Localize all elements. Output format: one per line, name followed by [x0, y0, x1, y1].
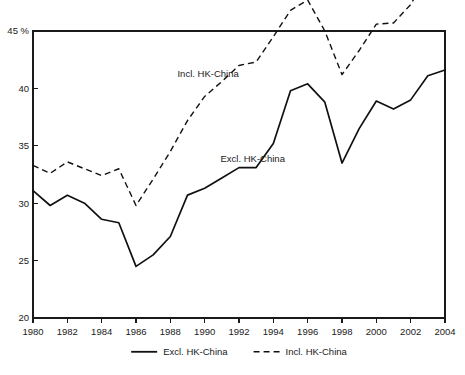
- x-tick-label: 1982: [57, 326, 78, 337]
- x-tick-label: 1990: [194, 326, 215, 337]
- x-tick-label: 1998: [331, 326, 352, 337]
- x-tick-label: 1992: [228, 326, 249, 337]
- y-tick-label: 30: [18, 198, 29, 209]
- x-tick-label: 1988: [160, 326, 181, 337]
- y-tick-label: 25: [18, 255, 29, 266]
- chart-figure: 202530354045 % 1980198219841986198819901…: [0, 0, 465, 375]
- x-tick-label: 1980: [22, 326, 43, 337]
- legend-label-incl-hk-china: Incl. HK-China: [286, 346, 348, 357]
- annotation-label: Excl. HK-China: [221, 153, 286, 164]
- x-tick-label: 1984: [91, 326, 112, 337]
- x-tick-label: 1996: [297, 326, 318, 337]
- line-chart: 202530354045 % 1980198219841986198819901…: [0, 0, 465, 375]
- annotation-label: Incl. HK-China: [177, 68, 239, 79]
- chart-legend: Excl. HK-ChinaIncl. HK-China: [131, 346, 347, 357]
- data-series-group: [33, 0, 445, 266]
- x-tick-label: 1994: [263, 326, 284, 337]
- y-tick-label: 35: [18, 140, 29, 151]
- chart-axes: [33, 31, 445, 318]
- x-tick-label: 1986: [125, 326, 146, 337]
- x-tick-label: 2002: [400, 326, 421, 337]
- x-tick-label: 2004: [434, 326, 455, 337]
- x-axis-ticks: 1980198219841986198819901992199419961998…: [22, 318, 455, 337]
- x-tick-label: 2000: [366, 326, 387, 337]
- y-tick-label: 20: [18, 312, 29, 323]
- plot-border: [33, 31, 445, 318]
- y-tick-label: 45 %: [7, 25, 29, 36]
- series-line-excl-hk-china: [33, 70, 445, 266]
- y-tick-label: 40: [18, 83, 29, 94]
- legend-label-excl-hk-china: Excl. HK-China: [163, 346, 228, 357]
